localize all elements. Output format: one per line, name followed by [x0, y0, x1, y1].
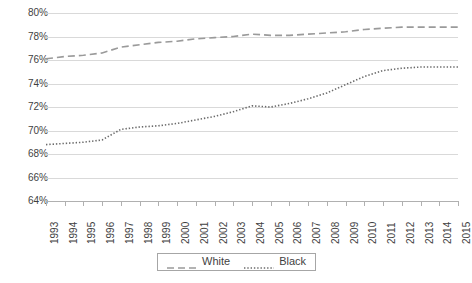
x-axis-tickmark [439, 201, 440, 206]
x-axis-tick-label: 2003 [237, 222, 247, 244]
x-axis-tickmark [383, 201, 384, 206]
x-axis-tick-label: 2009 [350, 222, 360, 244]
x-axis-tick-label: 1995 [87, 222, 97, 244]
x-axis-tickmark [121, 201, 122, 206]
x-axis-tickmark [215, 201, 216, 206]
y-axis-tick-label: 68% [8, 149, 48, 159]
legend-entry-white[interactable]: White [167, 256, 230, 267]
series-line-black [46, 67, 458, 145]
y-axis-tick-label: 74% [8, 79, 48, 89]
y-axis-tick-label: 76% [8, 55, 48, 65]
x-axis-tick-label: 2004 [256, 222, 266, 244]
x-axis-tickmark [65, 201, 66, 206]
x-axis-tickmark [364, 201, 365, 206]
y-axis-tick-label: 64% [8, 196, 48, 206]
x-axis-tick-label: 2008 [331, 222, 341, 244]
x-axis-tickmark [308, 201, 309, 206]
x-axis-tick-label: 2001 [200, 222, 210, 244]
x-axis-tick-label: 2005 [275, 222, 285, 244]
x-axis-tickmark [177, 201, 178, 206]
x-axis-tickmark [140, 201, 141, 206]
x-axis-tick-label: 2000 [181, 222, 191, 244]
x-axis-tick-label: 2013 [425, 222, 435, 244]
legend: White Black [157, 253, 316, 271]
x-axis-tick-label: 2011 [387, 222, 397, 244]
y-axis-tick-label: 78% [8, 32, 48, 42]
x-axis-tickmark [458, 201, 459, 206]
x-axis-tickmark [421, 201, 422, 206]
x-axis-tickmark [196, 201, 197, 206]
x-axis-tick-label: 2006 [293, 222, 303, 244]
x-axis-tickmark [158, 201, 159, 206]
legend-swatch-white-icon [167, 258, 197, 266]
x-axis-tickmark [346, 201, 347, 206]
x-axis-tick-label: 2007 [312, 222, 322, 244]
x-axis-tickmark [271, 201, 272, 206]
x-axis-tick-label: 1993 [50, 222, 60, 244]
y-axis-tick-label: 66% [8, 173, 48, 183]
x-axis-tickmark [327, 201, 328, 206]
series-layer [46, 13, 458, 201]
y-axis-tick-label: 72% [8, 102, 48, 112]
y-axis-tick-label: 70% [8, 126, 48, 136]
x-axis-tickmark [233, 201, 234, 206]
x-axis-tick-label: 2010 [368, 222, 378, 244]
x-axis-tick-label: 2015 [462, 222, 472, 244]
series-line-white [46, 27, 458, 59]
x-axis-tickmark [46, 201, 47, 206]
x-axis-tick-label: 1998 [144, 222, 154, 244]
x-axis-tickmark [102, 201, 103, 206]
x-axis-tickmark [252, 201, 253, 206]
x-axis-tick-label: 2014 [443, 222, 453, 244]
x-axis-tick-label: 1994 [69, 222, 79, 244]
legend-label-white: White [202, 256, 230, 267]
x-axis-tickmark [289, 201, 290, 206]
x-axis-tick-label: 2012 [406, 222, 416, 244]
x-axis-tickmark [402, 201, 403, 206]
legend-swatch-black-icon [244, 258, 274, 266]
legend-entry-black[interactable]: Black [244, 256, 306, 267]
x-axis-tick-label: 1999 [162, 222, 172, 244]
legend-label-black: Black [279, 256, 306, 267]
x-axis-tickmark [83, 201, 84, 206]
x-axis-tick-label: 1997 [125, 222, 135, 244]
x-axis-tick-label: 1996 [106, 222, 116, 244]
x-axis-tick-label: 2002 [219, 222, 229, 244]
y-axis-tick-label: 80% [8, 8, 48, 18]
plot-area [46, 13, 458, 201]
